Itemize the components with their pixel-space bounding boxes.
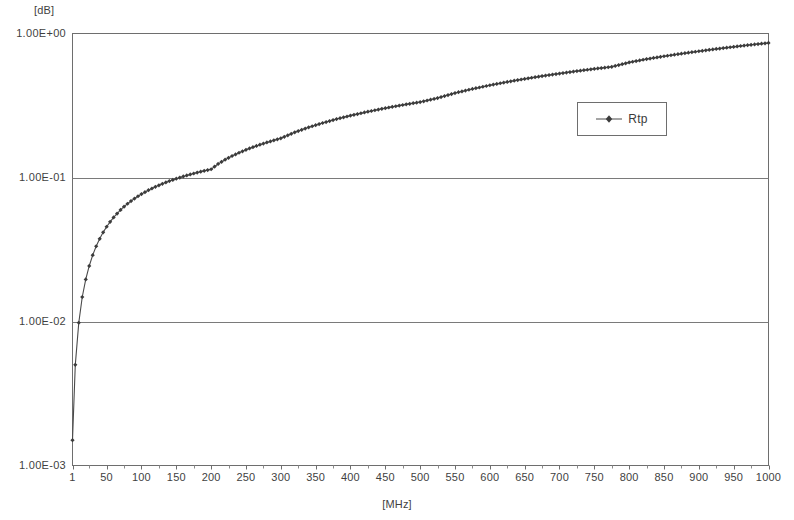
x-axis-ticks (74, 466, 770, 470)
plot-surface (0, 0, 794, 520)
y-axis-tick-label: 1.00E-01 (0, 171, 66, 183)
y-axis-tick-label: 1.00E-03 (0, 459, 66, 471)
plot-frame (73, 34, 769, 466)
y-axis-tick-label: 1.00E+00 (0, 27, 66, 39)
x-axis-tick-label: 1000 (749, 471, 789, 483)
legend-marker-icon (596, 114, 622, 124)
legend-label-rtp: Rtp (628, 112, 648, 126)
legend[interactable]: Rtp (577, 102, 667, 136)
chart-container: [dB] 1.00E+001.00E-011.00E-021.00E-03 15… (0, 0, 794, 520)
x-axis-title: [MHz] (0, 498, 794, 510)
y-axis-tick-label: 1.00E-02 (0, 315, 66, 327)
